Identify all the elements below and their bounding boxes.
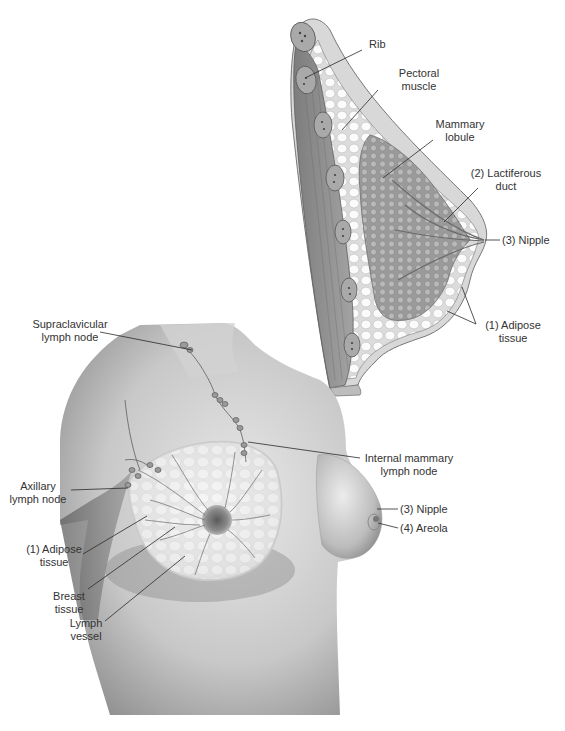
label-line: duct (456, 180, 556, 193)
label-line: Pectoral (384, 67, 454, 80)
label-line: (1) Adipose (468, 319, 558, 332)
label-line: (3) Nipple (502, 234, 550, 247)
label-line: tissue (22, 556, 86, 569)
label-pectoral-muscle: Pectoral muscle (384, 67, 454, 93)
label-line: Lymph (66, 617, 106, 630)
label-line: vessel (66, 630, 106, 643)
label-line: tissue (47, 603, 91, 616)
label-rib-text: Rib (369, 38, 386, 51)
label-supraclavicular-lymph-node: Supraclavicular lymph node (30, 318, 110, 344)
label-line: Mammary (425, 118, 495, 131)
label-line: lymph node (30, 331, 110, 344)
label-adipose-torso: (1) Adipose tissue (22, 543, 86, 569)
label-mammary-lobule: Mammary lobule (425, 118, 495, 144)
label-line: lobule (425, 131, 495, 144)
label-lactiferous-duct: (2) Lactiferous duct (456, 167, 556, 193)
label-nipple-section: (3) Nipple (502, 234, 550, 247)
label-line: tissue (468, 332, 558, 345)
label-line: Axillary (6, 480, 70, 493)
label-line: lymph node (359, 465, 459, 478)
label-adipose-section: (1) Adipose tissue (468, 319, 558, 345)
label-breast-tissue: Breast tissue (47, 590, 91, 616)
label-line: (2) Lactiferous (456, 167, 556, 180)
label-rib: Rib (369, 38, 386, 51)
label-line: (4) Areola (400, 522, 448, 535)
label-axillary-lymph-node: Axillary lymph node (6, 480, 70, 506)
anatomy-diagram: Rib Pectoral muscle Mammary lobule (2) L… (0, 0, 565, 731)
label-areola: (4) Areola (400, 522, 448, 535)
label-nipple-torso: (3) Nipple (400, 503, 448, 516)
label-line: muscle (384, 80, 454, 93)
label-internal-mammary-lymph-node: Internal mammary lymph node (359, 452, 459, 478)
label-line: Internal mammary (359, 452, 459, 465)
label-line: (3) Nipple (400, 503, 448, 516)
label-line: Supraclavicular (30, 318, 110, 331)
label-lymph-vessel: Lymph vessel (66, 617, 106, 643)
label-line: (1) Adipose (22, 543, 86, 556)
label-line: lymph node (6, 493, 70, 506)
label-line: Breast (47, 590, 91, 603)
